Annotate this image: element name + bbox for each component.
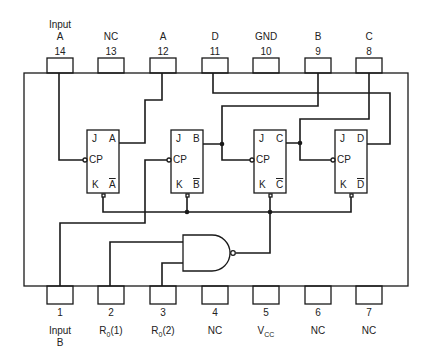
pin-6-label: NC <box>298 325 338 336</box>
pin-9-label: B <box>298 31 338 42</box>
pin-12-label: A <box>143 31 183 42</box>
pin-5-label: VCC <box>246 325 286 340</box>
ffd-qbar: D <box>357 180 364 190</box>
pin-9-number: 9 <box>298 46 338 57</box>
pin-11-number: 11 <box>195 46 235 57</box>
junction-dots <box>185 141 303 215</box>
ffb-j: J <box>176 134 181 144</box>
pin-1-label: Input <box>40 325 80 336</box>
pin-14-prefix: Input <box>40 19 80 30</box>
ffc-q: C <box>276 134 283 144</box>
ffa-q: A <box>109 134 116 144</box>
pin-1-number: 1 <box>40 307 80 318</box>
ffb-cp: CP <box>173 155 187 165</box>
ffd-j: J <box>340 134 345 144</box>
ffd-k: K <box>340 180 347 190</box>
ffa-j: J <box>92 134 97 144</box>
pin-1-suffix: B <box>40 337 80 348</box>
ffa-k: K <box>92 180 99 190</box>
pin-14-number: 14 <box>40 46 80 57</box>
ffb-q: B <box>193 134 200 144</box>
pin-4-label: NC <box>195 325 235 336</box>
pin-2-number: 2 <box>91 307 131 318</box>
nand-output-bubble <box>231 251 236 256</box>
pin-10-label: GND <box>246 31 286 42</box>
pin-6-number: 6 <box>298 307 338 318</box>
nand-gate <box>183 235 230 271</box>
pin-10-number: 10 <box>246 46 286 57</box>
bottom-pin-boxes <box>47 286 382 304</box>
ffc-j: J <box>259 134 264 144</box>
ffc-qbar: C <box>276 180 283 190</box>
pin-4-number: 4 <box>195 307 235 318</box>
pin-8-number: 8 <box>349 46 389 57</box>
pin-8-label: C <box>349 31 389 42</box>
ffa-cp: CP <box>89 155 103 165</box>
pin-3-number: 3 <box>143 307 183 318</box>
ffa-qbar: A <box>109 180 116 190</box>
pin-5-number: 5 <box>246 307 286 318</box>
ffc-k: K <box>259 180 266 190</box>
reset-bubbles <box>102 194 353 197</box>
pin-11-label: D <box>195 31 235 42</box>
pin-13-number: 13 <box>91 46 131 57</box>
pin-14-label: A <box>40 31 80 42</box>
ffb-k: K <box>176 180 183 190</box>
top-pin-boxes <box>47 58 382 73</box>
pin-2-label: R0(1) <box>91 325 131 340</box>
clock-inversion-bubbles <box>83 158 335 162</box>
ffb-qbar: B <box>193 180 200 190</box>
pin-3-label: R0(2) <box>143 325 183 340</box>
ffd-cp: CP <box>337 155 351 165</box>
ffc-cp: CP <box>256 155 270 165</box>
ffd-q: D <box>357 134 364 144</box>
pin-13-label: NC <box>91 31 131 42</box>
pin-7-number: 7 <box>349 307 389 318</box>
pin-12-number: 12 <box>143 46 183 57</box>
pin-7-label: NC <box>349 325 389 336</box>
